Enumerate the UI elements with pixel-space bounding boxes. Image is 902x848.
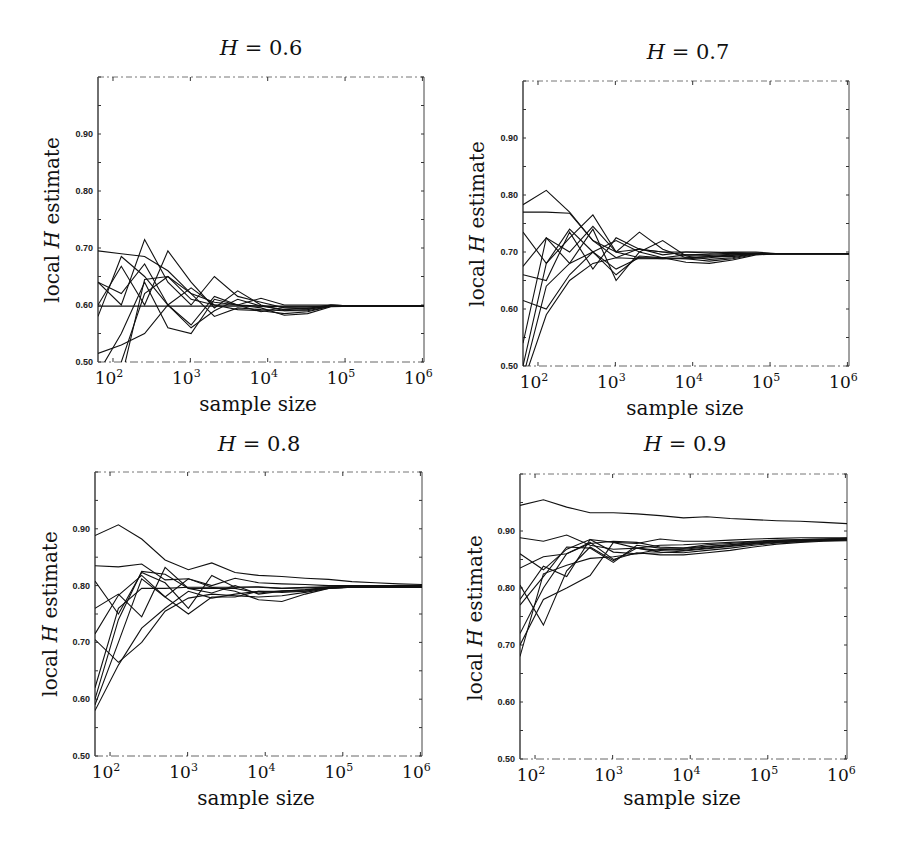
x-tick-label: 103 — [169, 761, 198, 782]
panel-h-0-9: H = 0.9 local H estimate sample size 0.5… — [451, 424, 902, 848]
x-tick-label: 104 — [247, 761, 276, 782]
y-tick-label: 0.80 — [72, 581, 90, 591]
series-group — [523, 190, 849, 383]
y-tick-label: 0.70 — [500, 247, 518, 257]
x-tick-label: 103 — [172, 367, 201, 388]
x-tick-label: 104 — [249, 367, 278, 388]
y-tick-label: 0.70 — [72, 637, 90, 647]
series-line — [523, 226, 849, 343]
y-tick-label: 0.80 — [500, 190, 518, 200]
x-tick-label: 104 — [672, 764, 701, 785]
series-line — [95, 525, 422, 585]
x-tick-label: 105 — [324, 761, 353, 782]
plot-area: 0.500.600.700.800.90102103104105106 — [451, 424, 902, 848]
x-tick-label: 102 — [520, 371, 549, 392]
series-line — [95, 579, 422, 705]
x-tick-label: 104 — [674, 371, 703, 392]
x-tick-label: 106 — [402, 761, 431, 782]
panel-h-0-6: H = 0.6 local H estimate sample size 0.5… — [0, 0, 451, 424]
x-tick-label: 103 — [597, 371, 626, 392]
plot-area: 0.500.600.700.800.90102103104105106 — [451, 0, 902, 424]
y-tick-label: 0.60 — [72, 694, 90, 704]
y-tick-label: 0.50 — [75, 357, 93, 367]
y-tick-label: 0.50 — [497, 754, 515, 764]
x-tick-label: 105 — [749, 764, 778, 785]
y-tick-label: 0.80 — [497, 583, 515, 593]
y-tick-label: 0.90 — [497, 526, 515, 536]
x-tick-label: 105 — [752, 371, 781, 392]
x-tick-label: 103 — [594, 764, 623, 785]
series-line — [523, 241, 849, 309]
plot-area: 0.500.600.700.800.90102103104105106 — [0, 424, 451, 848]
series-group — [95, 525, 422, 711]
y-tick-label: 0.80 — [75, 186, 93, 196]
y-tick-label: 0.60 — [75, 300, 93, 310]
y-tick-label: 0.90 — [500, 133, 518, 143]
series-line — [98, 282, 424, 373]
y-tick-label: 0.70 — [75, 243, 93, 253]
series-line — [98, 264, 424, 328]
x-tick-label: 102 — [517, 764, 546, 785]
series-line — [520, 500, 847, 524]
series-line — [95, 587, 422, 662]
series-line — [523, 252, 849, 377]
y-tick-label: 0.50 — [500, 361, 518, 371]
series-line — [95, 571, 422, 699]
x-tick-label: 106 — [829, 371, 858, 392]
x-tick-label: 102 — [95, 367, 124, 388]
y-tick-label: 0.90 — [75, 129, 93, 139]
x-tick-label: 106 — [827, 764, 856, 785]
y-tick-label: 0.60 — [500, 304, 518, 314]
y-tick-label: 0.60 — [497, 697, 515, 707]
panel-h-0-8: H = 0.8 local H estimate sample size 0.5… — [0, 424, 451, 848]
y-tick-label: 0.50 — [72, 751, 90, 761]
x-tick-label: 102 — [92, 761, 121, 782]
series-line — [95, 575, 422, 634]
series-line — [98, 257, 424, 326]
series-line — [523, 190, 849, 255]
series-line — [520, 540, 847, 657]
series-line — [95, 587, 422, 688]
y-tick-label: 0.90 — [72, 524, 90, 534]
series-line — [95, 587, 422, 710]
x-tick-label: 106 — [404, 367, 433, 388]
panel-h-0-7: H = 0.7 local H estimate sample size 0.5… — [451, 0, 902, 424]
plot-area: 0.500.600.700.800.90102103104105106 — [0, 0, 451, 424]
series-group — [520, 500, 847, 657]
y-tick-label: 0.70 — [497, 640, 515, 650]
series-line — [95, 567, 422, 616]
x-tick-label: 105 — [327, 367, 356, 388]
